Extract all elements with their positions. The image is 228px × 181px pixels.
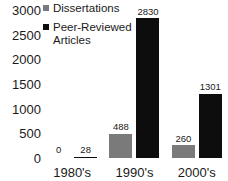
y-axis-tick-label: 3000 (1, 4, 41, 17)
bar[interactable]: 488 (109, 134, 132, 158)
y-axis-tick-label: 2500 (1, 28, 41, 41)
bar-fill (109, 134, 132, 158)
y-axis-tick-label: 500 (1, 127, 41, 140)
bar[interactable]: 1301 (199, 94, 222, 158)
bar-chart: 300025002000150010005000 DissertationsPe… (0, 0, 228, 181)
bar-fill (172, 145, 195, 158)
y-axis-tick-label: 1500 (1, 78, 41, 91)
bar[interactable]: 2830 (136, 18, 159, 158)
y-axis-tick-label: 1000 (1, 102, 41, 115)
x-axis-category-label: 1990's (103, 166, 165, 179)
bar-fill (136, 18, 159, 158)
y-axis-tick-label: 0 (1, 152, 41, 165)
bar-value-label: 0 (56, 145, 61, 155)
bar-value-label: 2830 (137, 7, 158, 17)
plot-area: 0281980's48828301990's26013012000's (41, 0, 228, 181)
bar-value-label: 488 (113, 122, 129, 132)
bar[interactable]: 0 (47, 157, 70, 158)
x-axis-category-label: 1980's (41, 166, 103, 179)
bar[interactable]: 260 (172, 145, 195, 158)
bar-group: 0281980's (41, 0, 103, 181)
bar-group: 26013012000's (166, 0, 228, 181)
bar-group: 48828301990's (103, 0, 165, 181)
x-axis-category-label: 2000's (166, 166, 228, 179)
bar-value-label: 28 (80, 145, 91, 155)
y-axis: 300025002000150010005000 (0, 0, 41, 181)
bar-value-label: 260 (175, 134, 191, 144)
y-axis-tick-label: 2000 (1, 53, 41, 66)
bar-fill (199, 94, 222, 158)
bar-fill (74, 157, 97, 159)
bar[interactable]: 28 (74, 157, 97, 158)
bar-value-label: 1301 (200, 82, 221, 92)
